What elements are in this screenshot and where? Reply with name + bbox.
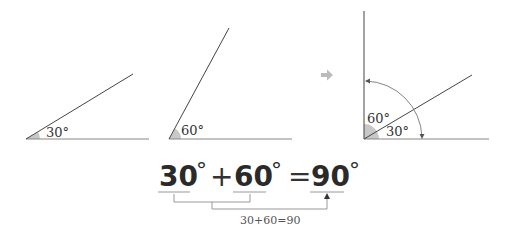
ray-30 bbox=[364, 75, 472, 139]
angle-wedge-60 bbox=[169, 129, 181, 139]
equation-term-30: 30 bbox=[159, 160, 198, 193]
sum-note: 30+60=90 bbox=[240, 214, 300, 227]
panel-30-degree-angle: 30° bbox=[26, 74, 149, 140]
angle-addition-diagram: 30° 60° 60° 30° 30 ° + 60 ° = 90 ° bbox=[0, 0, 505, 231]
sum-arrowhead-icon bbox=[324, 193, 330, 199]
equals-sign: = bbox=[288, 160, 311, 193]
equation: 30 ° + 60 ° = 90 ° 30+60=90 bbox=[158, 158, 360, 227]
degree-symbol: ° bbox=[349, 158, 360, 183]
angle-label-30: 30° bbox=[46, 125, 69, 140]
degree-symbol: ° bbox=[271, 158, 282, 183]
angle-label-60: 60° bbox=[181, 123, 204, 138]
panel-60-degree-angle: 60° bbox=[169, 28, 292, 139]
plus-sign: + bbox=[210, 160, 233, 193]
equation-term-60: 60 bbox=[234, 160, 273, 193]
ray-30 bbox=[26, 74, 133, 139]
arc-arrowhead-bottom-icon bbox=[420, 134, 425, 139]
panel-combined-90-degree: 60° 30° bbox=[364, 11, 489, 139]
equation-result-90: 90 bbox=[311, 160, 350, 193]
angle-label-30: 30° bbox=[386, 124, 409, 139]
sum-arrow-line bbox=[212, 197, 327, 209]
bracket-connector bbox=[174, 194, 250, 202]
transition-arrow-icon bbox=[321, 70, 333, 81]
degree-symbol: ° bbox=[196, 158, 207, 183]
arc-arrowhead-top-icon bbox=[365, 79, 370, 84]
